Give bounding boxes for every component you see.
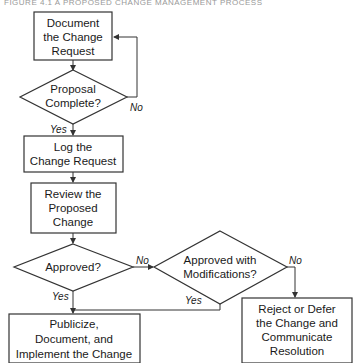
label-approved-yes: Yes xyxy=(52,291,69,302)
svg-text:Communicate: Communicate xyxy=(262,331,333,343)
label-approved-mod-yes: Yes xyxy=(185,295,202,306)
edge-complete-no xyxy=(114,37,137,97)
node-review: Review the Proposed Change xyxy=(31,183,116,233)
svg-text:Resolution: Resolution xyxy=(270,345,324,357)
svg-text:Document: Document xyxy=(47,17,100,29)
flowchart: FIGURE 4.1 A PROPOSED CHANGE MANAGEMENT … xyxy=(0,0,357,363)
svg-text:Request: Request xyxy=(52,45,96,57)
node-approved-with-modifications: Approved with Modifications? xyxy=(154,231,287,304)
svg-text:Publicize,: Publicize, xyxy=(49,318,98,330)
svg-text:Proposed: Proposed xyxy=(48,202,97,214)
figure-title: FIGURE 4.1 A PROPOSED CHANGE MANAGEMENT … xyxy=(4,0,263,7)
label-complete-no: No xyxy=(130,102,143,113)
svg-text:Modifications?: Modifications? xyxy=(183,268,257,280)
edge-approved-mod-no xyxy=(287,267,295,297)
node-approved: Approved? xyxy=(14,244,133,291)
svg-text:Change: Change xyxy=(53,216,93,228)
label-approved-mod-no: No xyxy=(289,255,302,266)
svg-text:Proposal: Proposal xyxy=(50,83,95,95)
svg-text:Change Request: Change Request xyxy=(30,155,117,167)
svg-text:Approved?: Approved? xyxy=(45,261,101,273)
node-log: Log the Change Request xyxy=(24,136,123,172)
label-approved-no: No xyxy=(136,255,149,266)
svg-text:the Change: the Change xyxy=(43,31,102,43)
svg-text:Review the: Review the xyxy=(45,188,102,200)
node-publicize: Publicize, Document, and Implement the C… xyxy=(9,314,140,363)
svg-text:Approved with: Approved with xyxy=(184,254,257,266)
svg-text:Complete?: Complete? xyxy=(45,97,101,109)
node-reject: Reject or Defer the Change and Communica… xyxy=(242,298,352,363)
node-document: Document the Change Request xyxy=(34,12,112,60)
svg-text:Document, and: Document, and xyxy=(35,333,113,345)
svg-text:Reject or Defer: Reject or Defer xyxy=(258,303,336,315)
svg-text:Implement the Change: Implement the Change xyxy=(16,348,132,360)
svg-text:the Change and: the Change and xyxy=(256,317,338,329)
label-complete-yes: Yes xyxy=(50,124,67,135)
node-proposal-complete: Proposal Complete? xyxy=(20,70,127,124)
svg-text:Log the: Log the xyxy=(54,141,92,153)
